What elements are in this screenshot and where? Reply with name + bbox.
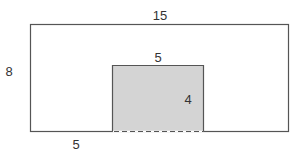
outer-height-label: 8 xyxy=(5,65,12,78)
rectangle-diagram xyxy=(0,0,303,157)
left-offset-label: 5 xyxy=(72,138,79,151)
outer-width-label: 15 xyxy=(153,9,167,22)
inner-width-label: 5 xyxy=(154,51,161,64)
inner-height-label: 4 xyxy=(184,93,191,106)
